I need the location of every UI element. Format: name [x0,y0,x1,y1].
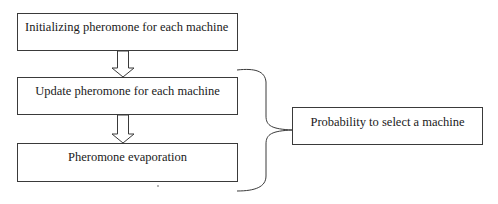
curly-brace-icon [237,69,292,191]
down-arrow-icon [112,51,134,77]
node-selection-probability: Probability to select a machine [292,107,483,145]
node-label: Initializing pheromone for each machine [25,20,228,34]
node-label: Pheromone evaporation [18,150,237,164]
node-pheromone-evaporation: Pheromone evaporation [17,143,238,182]
down-arrow-icon [112,115,134,143]
node-label: Probability to select a machine [293,115,482,129]
stray-dot [157,185,159,187]
node-label: Update pheromone for each machine [18,84,237,98]
node-init-pheromone: Initializing pheromone for each machine [17,13,238,51]
node-update-pheromone: Update pheromone for each machine [17,77,238,115]
